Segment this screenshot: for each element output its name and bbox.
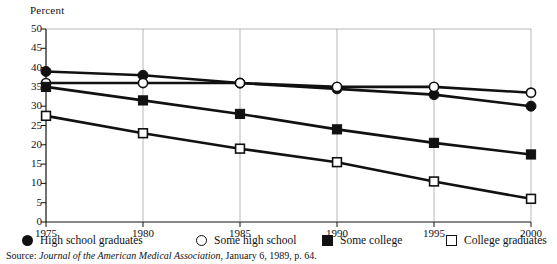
data-point-square-open bbox=[236, 144, 245, 153]
legend-circle-open-icon bbox=[196, 235, 207, 246]
data-point-square-filled bbox=[138, 96, 147, 105]
data-point-circle-filled bbox=[41, 66, 51, 76]
data-point-circle-open bbox=[138, 78, 147, 87]
legend-item: Some high school bbox=[196, 232, 296, 248]
legend-label: Some college bbox=[340, 234, 402, 247]
data-point-square-open bbox=[42, 111, 51, 120]
data-point-square-open bbox=[333, 158, 342, 167]
source-note: Source: Journal of the American Medical … bbox=[6, 250, 317, 262]
legend-square-filled-icon bbox=[322, 235, 333, 246]
legend-circle-filled-icon bbox=[22, 235, 33, 246]
data-point-circle-open bbox=[429, 82, 438, 91]
legend-item: High school graduates bbox=[22, 232, 143, 248]
chart-figure: Percent 05101520253035404550 19751980198… bbox=[0, 0, 557, 264]
data-point-circle-open bbox=[526, 88, 535, 97]
data-point-square-open bbox=[430, 177, 439, 186]
data-point-circle-open bbox=[332, 82, 341, 91]
source-publication: Journal of the American Medical Associat… bbox=[39, 250, 221, 261]
source-prefix: Source: bbox=[6, 250, 39, 261]
legend-label: College graduates bbox=[464, 234, 547, 247]
data-point-circle-filled bbox=[526, 101, 536, 111]
data-point-square-open bbox=[139, 129, 148, 138]
series-line-circle-open bbox=[46, 83, 531, 93]
legend-label: High school graduates bbox=[40, 234, 143, 247]
legend-square-open-icon bbox=[446, 235, 457, 246]
series-line-square-open bbox=[46, 116, 531, 199]
data-point-square-open bbox=[527, 194, 536, 203]
chart-legend: High school graduatesSome high schoolSom… bbox=[22, 232, 542, 248]
data-point-square-filled bbox=[429, 138, 438, 147]
legend-label: Some high school bbox=[214, 234, 296, 247]
chart-canvas bbox=[46, 29, 531, 222]
plot-area bbox=[46, 29, 531, 222]
source-suffix: , January 6, 1989, p. 64. bbox=[221, 250, 317, 261]
data-point-square-filled bbox=[332, 125, 341, 134]
data-point-circle-open bbox=[235, 78, 244, 87]
data-point-square-filled bbox=[235, 109, 244, 118]
data-point-square-filled bbox=[41, 82, 50, 91]
legend-item: College graduates bbox=[446, 232, 547, 248]
legend-item: Some college bbox=[322, 232, 402, 248]
data-point-square-filled bbox=[526, 150, 535, 159]
